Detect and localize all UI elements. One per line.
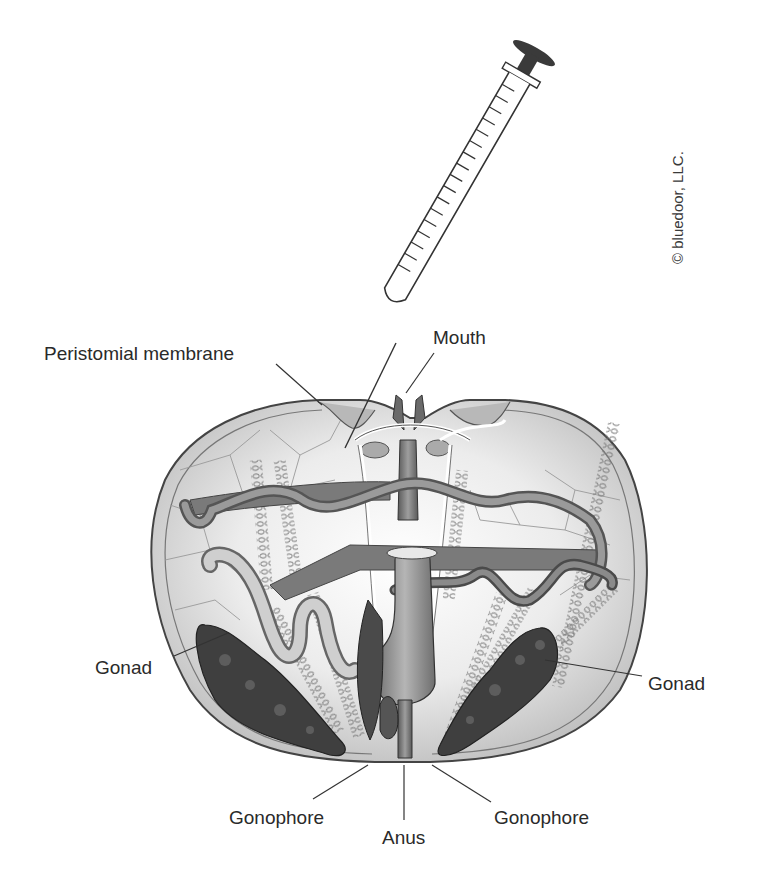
sea-urchin-anatomy-diagram: Peristomial membrane Mouth Gonad Gonad G… [0, 0, 757, 887]
label-mouth: Mouth [433, 328, 486, 347]
rectum [398, 700, 412, 758]
label-gonad-right: Gonad [648, 674, 705, 693]
label-gonophore-right: Gonophore [494, 808, 589, 827]
label-anus: Anus [382, 828, 425, 847]
syringe [345, 36, 558, 448]
copyright-notice: © bluedoor, LLC. [670, 151, 685, 264]
label-gonad-left: Gonad [95, 658, 152, 677]
label-peristomial-membrane: Peristomial membrane [44, 344, 234, 363]
label-gonophore-left: Gonophore [229, 808, 324, 827]
illustration [0, 0, 757, 887]
